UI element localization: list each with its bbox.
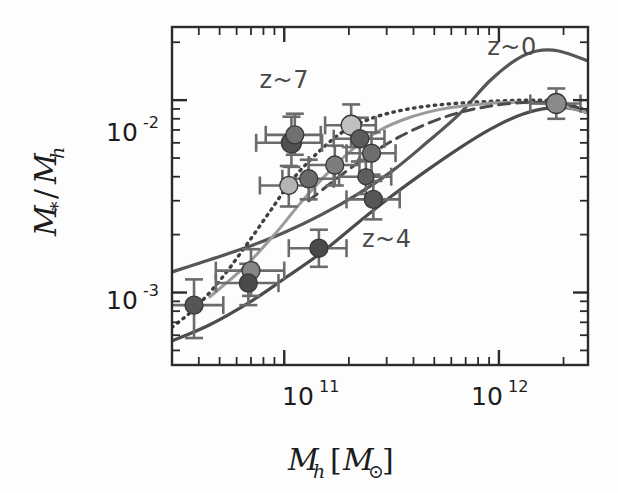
figure-background — [0, 0, 618, 493]
data-point-12 — [351, 130, 369, 148]
data-point-4 — [364, 190, 382, 208]
y-tick-mantissa: 10 — [106, 118, 138, 147]
data-point-7 — [286, 126, 304, 144]
x-axis-title-sub-h: h — [313, 460, 325, 482]
data-point-10 — [326, 156, 344, 174]
y-axis-title-slash: / — [28, 188, 63, 199]
x-tick-exponent: 12 — [508, 377, 528, 396]
y-tick-exponent: -3 — [143, 281, 159, 300]
y-tick-exponent: -2 — [143, 113, 159, 132]
x-tick-mantissa: 10 — [282, 382, 314, 411]
data-point-3 — [310, 239, 328, 257]
data-point-8 — [280, 177, 298, 195]
x-tick-exponent: 11 — [319, 377, 339, 396]
figure-root: z~0z~7z~4 10 -2 10 -3 10 11 10 12 M h [ … — [0, 0, 618, 493]
chart-svg: z~0z~7z~4 10 -2 10 -3 10 11 10 12 M h [ … — [0, 0, 618, 493]
x-tick-mantissa: 10 — [471, 382, 503, 411]
data-point-2 — [239, 274, 257, 292]
y-tick-mantissa: 10 — [106, 286, 138, 315]
data-point-14 — [546, 94, 566, 114]
data-point-13 — [363, 144, 381, 162]
data-point-9 — [300, 170, 318, 188]
y-axis-title: M * / M h — [28, 147, 68, 237]
y-axis-title-sub-star: * — [46, 201, 68, 211]
data-point-0 — [185, 296, 203, 314]
annotation-z4: z~4 — [362, 225, 411, 253]
y-axis-title-den-sub-h: h — [46, 147, 68, 159]
annotation-z7: z~7 — [260, 66, 309, 94]
x-axis-title-bracket-open: [ — [330, 442, 342, 477]
annotation-z0: z~0 — [487, 33, 536, 61]
data-point-5 — [358, 169, 374, 185]
x-axis-title-bracket-close: ] — [382, 442, 394, 477]
